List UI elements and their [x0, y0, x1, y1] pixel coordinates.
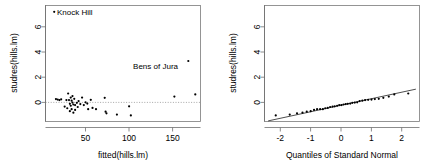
data-point: [91, 107, 93, 109]
data-point: [74, 109, 76, 111]
data-point: [66, 107, 68, 109]
right-x-tick-label-1: 1: [369, 133, 374, 143]
right-y-tick-label-6: 6: [252, 24, 262, 29]
right-y-axis: 0 2 4 6: [252, 6, 264, 122]
data-point: [331, 106, 333, 108]
data-point: [194, 93, 196, 95]
left-y-axis: 0 2 4 6: [33, 6, 45, 122]
left-y-tick-label-6: 6: [33, 24, 43, 29]
data-point: [370, 98, 372, 100]
data-point: [296, 112, 298, 114]
left-x-tick-label-100: 100: [122, 133, 136, 143]
data-point: [81, 96, 83, 98]
right-x-axis: -2 -1 0 1 2: [265, 128, 420, 144]
data-point: [351, 102, 353, 104]
data-point: [388, 95, 390, 97]
data-point: [374, 98, 376, 100]
data-point: [71, 100, 73, 102]
data-point: [71, 108, 73, 110]
data-point: [407, 92, 409, 94]
data-point: [338, 104, 340, 106]
data-point: [329, 106, 331, 108]
data-point: [71, 101, 73, 103]
left-x-tick-label-50: 50: [81, 133, 91, 143]
data-point: [354, 101, 356, 103]
qq-normal-panel: 0 2 4 6 studres(hills.lm) -2 -1 0: [221, 0, 442, 165]
bens-of-jura-label: Bens of Jura: [133, 62, 178, 71]
data-point: [86, 103, 88, 105]
data-point: [310, 110, 312, 112]
data-point: [324, 107, 326, 109]
data-point: [128, 105, 130, 107]
data-point: [70, 96, 72, 98]
knock-hill-label: Knock Hill: [57, 8, 93, 17]
data-point: [393, 93, 395, 95]
data-point: [382, 97, 384, 99]
data-point: [79, 103, 81, 105]
left-y-tick-label-0: 0: [33, 100, 43, 105]
data-point: [69, 103, 71, 105]
right-x-tick-label-neg1: -1: [307, 133, 315, 143]
left-y-axis-title: studres(hills.lm): [9, 33, 19, 93]
data-point: [53, 11, 55, 13]
data-point: [340, 104, 342, 106]
left-plot-svg: 0 2 4 6 studres(hills.lm) 50 100 150: [0, 0, 221, 165]
data-point: [336, 105, 338, 107]
right-y-axis-title: studres(hills.lm): [228, 33, 238, 93]
data-point: [71, 95, 73, 97]
data-point: [275, 114, 277, 116]
data-point: [104, 97, 106, 99]
right-x-tick-label-neg2: -2: [277, 133, 285, 143]
right-x-tick-label-0: 0: [339, 133, 344, 143]
right-y-tick-label-4: 4: [252, 49, 262, 54]
data-point: [322, 108, 324, 110]
data-point: [90, 99, 92, 101]
data-point: [73, 98, 75, 100]
data-point: [378, 98, 380, 100]
left-y-tick-label-4: 4: [33, 49, 43, 54]
data-point: [173, 95, 175, 97]
data-point: [342, 103, 344, 105]
data-point: [364, 99, 366, 101]
data-point: [76, 102, 78, 104]
data-point: [87, 108, 89, 110]
data-point: [70, 105, 72, 107]
data-point: [316, 108, 318, 110]
right-plot-frame: [265, 6, 420, 122]
data-point: [130, 114, 132, 116]
data-point: [77, 100, 79, 102]
data-point: [69, 110, 71, 112]
data-point: [289, 113, 291, 115]
data-point: [313, 109, 315, 111]
data-point: [327, 107, 329, 109]
data-point: [74, 104, 76, 106]
data-point: [67, 92, 69, 94]
data-point: [367, 99, 369, 101]
data-point: [349, 103, 351, 105]
data-point: [301, 112, 303, 114]
residuals-vs-fitted-panel: 0 2 4 6 studres(hills.lm) 50 100 150: [0, 0, 221, 165]
data-point: [60, 98, 62, 100]
data-point: [68, 99, 70, 101]
data-point: [83, 104, 85, 106]
right-x-axis-title: Quantiles of Standard Normal: [286, 150, 398, 160]
right-plot-svg: 0 2 4 6 studres(hills.lm) -2 -1 0: [221, 0, 442, 165]
data-point: [95, 108, 97, 110]
diagnostic-plot-figure: 0 2 4 6 studres(hills.lm) 50 100 150: [0, 0, 442, 165]
data-point: [116, 113, 118, 115]
data-point: [65, 99, 67, 101]
data-point: [347, 103, 349, 105]
data-point: [105, 112, 107, 114]
data-point: [306, 111, 308, 113]
data-point: [359, 100, 361, 102]
left-x-axis-title: fitted(hills.lm): [98, 150, 148, 160]
data-point: [77, 106, 79, 108]
left-y-tick-label-2: 2: [33, 75, 43, 80]
right-y-tick-label-0: 0: [252, 100, 262, 105]
data-point: [334, 105, 336, 107]
data-point: [356, 101, 358, 103]
data-point: [319, 108, 321, 110]
right-data-points: [275, 92, 410, 116]
left-x-tick-label-150: 150: [166, 133, 180, 143]
data-point: [361, 100, 363, 102]
